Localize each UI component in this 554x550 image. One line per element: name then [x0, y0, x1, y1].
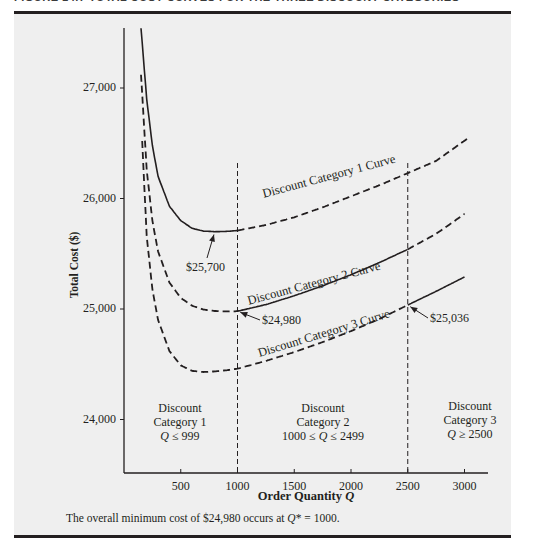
annotation-24980: $24,980: [262, 313, 301, 328]
arrowhead-icon: [410, 307, 418, 313]
category-3-solid-segment: [408, 277, 465, 305]
region-category-2: Discount Category 2 1000 ≤ Q ≤ 2499: [263, 401, 383, 443]
arrowhead-icon: [209, 235, 215, 243]
x-tick-label: 500: [156, 479, 206, 494]
y-tick-label: 27,000: [56, 80, 116, 95]
annotation-25036: $25,036: [430, 311, 469, 326]
curve-label-category-1: Discount Category 1 Curve: [261, 152, 398, 201]
category-2-dashed-segment: [408, 214, 465, 249]
y-tick-label: 24,000: [56, 412, 116, 427]
region-category-3: Discount Category 3 Q ≥ 2500: [410, 399, 530, 441]
cost-curves: [141, 28, 470, 372]
bottom-rule: [14, 535, 511, 538]
category-2-dashed-segment: [141, 75, 238, 312]
curve-labels: Discount Category 1 CurveDiscount Catego…: [246, 152, 398, 360]
x-tick-label: 3000: [440, 479, 490, 494]
curve-label-category-2: Discount Category 2 Curve: [246, 259, 383, 308]
arrowhead-icon: [240, 312, 248, 318]
annotation-25700: $25,700: [186, 260, 225, 275]
figure-caption: The overall minimum cost of $24,980 occu…: [66, 512, 340, 524]
y-tick-label: 25,000: [56, 301, 116, 316]
region-category-1: Discount Category 1 Q ≤ 999: [120, 401, 240, 443]
x-tick-label: 2500: [383, 479, 433, 494]
y-tick-label: 26,000: [56, 191, 116, 206]
category-3-dashed-segment: [142, 141, 408, 372]
y-axis-label: Total Cost ($): [68, 210, 80, 320]
x-axis-label: Order Quantity Q: [226, 489, 386, 504]
category-1-solid-segment: [141, 28, 238, 231]
